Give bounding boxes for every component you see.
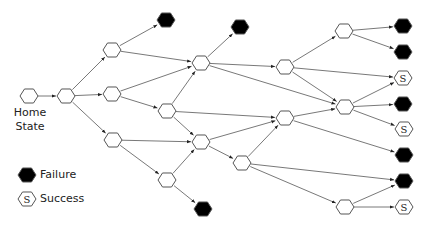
edge-L-f2 xyxy=(352,34,393,49)
edge-A-B xyxy=(72,57,105,90)
edge-G-H xyxy=(174,117,194,135)
failure-node-f1 xyxy=(394,19,412,33)
edge-G-E xyxy=(172,71,195,103)
state-node-home xyxy=(20,89,38,103)
edge-C-E xyxy=(120,66,191,91)
edge-F-s1 xyxy=(294,68,393,77)
success-glyph: S xyxy=(24,194,31,205)
state-node-I xyxy=(158,173,176,187)
failure-node-fI xyxy=(194,202,212,216)
legend: S xyxy=(18,168,36,206)
edge-L-f1 xyxy=(353,27,393,30)
edge-A-C xyxy=(75,94,102,95)
nodes-layer: SSS xyxy=(20,13,413,216)
legend-failure-icon xyxy=(18,168,36,182)
edge-C-G xyxy=(121,97,158,108)
edge-N-f5 xyxy=(353,185,395,203)
edge-M-s2 xyxy=(353,110,394,125)
edge-K-f4 xyxy=(294,121,395,152)
edge-D-H xyxy=(122,140,191,142)
edge-F-M xyxy=(292,72,336,101)
state-node-K xyxy=(276,111,294,125)
edge-M-f3 xyxy=(354,105,393,107)
home-state-label: Home State xyxy=(12,106,48,134)
edge-A-D xyxy=(73,102,106,133)
success-glyph: S xyxy=(400,73,407,84)
edge-I-H xyxy=(173,149,194,173)
failure-node-fE xyxy=(231,20,249,34)
state-node-J xyxy=(233,156,251,170)
edge-B-fB xyxy=(120,25,157,46)
legend-success-label: Success xyxy=(40,192,84,206)
state-node-M xyxy=(336,100,354,114)
success-glyph: S xyxy=(401,124,408,135)
failure-node-f4 xyxy=(395,148,413,162)
edge-F-L xyxy=(293,36,336,62)
home-label-line1: Home xyxy=(12,106,48,120)
state-node-A xyxy=(57,89,75,103)
success-glyph: S xyxy=(401,202,408,213)
edges-layer xyxy=(38,25,395,207)
edge-H-K xyxy=(210,121,276,140)
state-node-G xyxy=(158,104,176,118)
edge-E-fE xyxy=(208,34,233,57)
failure-node-f5 xyxy=(395,174,413,188)
state-node-B xyxy=(103,43,121,57)
edge-G-K xyxy=(176,112,275,118)
edge-H-J xyxy=(209,146,233,158)
state-node-N xyxy=(336,200,354,214)
failure-node-fB xyxy=(157,13,175,27)
edge-I-fI xyxy=(174,186,195,203)
state-node-E xyxy=(192,56,210,70)
edge-E-F xyxy=(210,63,275,66)
edge-K-M xyxy=(294,109,335,117)
failure-node-f3 xyxy=(394,97,412,111)
state-node-F xyxy=(276,60,294,74)
state-node-D xyxy=(104,133,122,147)
legend-failure-label: Failure xyxy=(40,168,76,182)
home-label-line2: State xyxy=(12,120,48,134)
edge-J-K xyxy=(248,125,278,156)
edge-E-M xyxy=(210,66,336,104)
state-node-C xyxy=(103,87,121,101)
edge-M-s1 xyxy=(353,82,394,103)
edge-B-E xyxy=(121,51,191,61)
edge-J-f5 xyxy=(251,164,394,180)
state-node-L xyxy=(335,24,353,38)
edge-D-I xyxy=(120,145,159,174)
failure-node-f2 xyxy=(394,45,412,59)
state-node-H xyxy=(192,135,210,149)
